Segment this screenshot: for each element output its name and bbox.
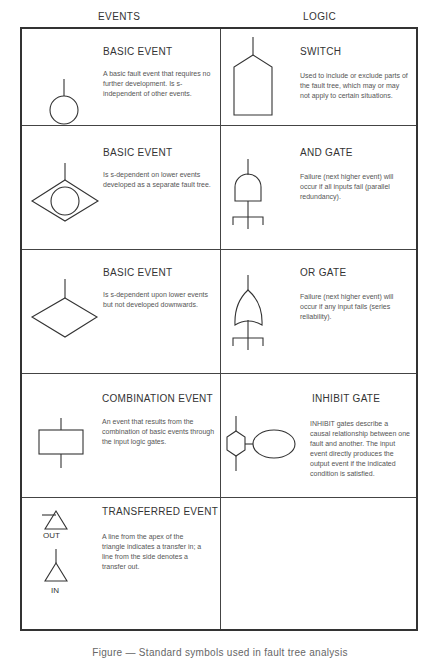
event-description: An event that results from the combinati… — [102, 417, 217, 447]
symbol-table: BASIC EVENT A basic fault event that req… — [20, 27, 418, 631]
event-cell: BASIC EVENT Is s-dependent on lower even… — [22, 125, 220, 249]
event-title: COMBINATION EVENT — [102, 393, 213, 404]
table-row: BASIC EVENT Is s-dependent upon lower ev… — [22, 249, 416, 374]
logic-description: Failure (next higher event) will occur i… — [300, 172, 400, 202]
circle-icon — [50, 79, 90, 129]
logic-cell: INHIBIT GATE INHIBIT gates describe a ca… — [221, 373, 416, 497]
logic-description: Failure (next higher event) will occur i… — [300, 292, 400, 322]
logic-description: INHIBIT gates describe a causal relation… — [310, 419, 410, 479]
rectangle-icon — [39, 418, 89, 473]
event-cell: BASIC EVENT A basic fault event that req… — [22, 29, 220, 125]
empty-logic-cell — [221, 497, 416, 629]
table-row: BASIC EVENT A basic fault event that req… — [22, 29, 416, 126]
event-cell: BASIC EVENT Is s-dependent upon lower ev… — [22, 249, 220, 373]
logic-cell: OR GATE Failure (next higher event) will… — [221, 249, 416, 373]
and-gate-icon — [233, 159, 273, 239]
logic-description: Used to include or exclude parts of the … — [300, 71, 410, 101]
event-title: TRANSFERRED EVENT — [102, 506, 218, 517]
transfer-in-label: IN — [51, 586, 59, 595]
transfer-out-label: OUT — [43, 531, 60, 540]
circle-in-diamond-icon — [32, 163, 102, 233]
table-row: COMBINATION EVENT An event that results … — [22, 373, 416, 498]
inhibit-gate-icon — [226, 416, 306, 476]
event-description: A line from the apex of the triangle ind… — [102, 532, 202, 572]
event-cell: OUT IN TRANSFERRED EVENT A line from the… — [22, 497, 220, 629]
transfer-in-triangle-icon — [42, 549, 82, 589]
event-cell: COMBINATION EVENT An event that results … — [22, 373, 220, 497]
logic-title: OR GATE — [300, 267, 346, 278]
logic-title: INHIBIT GATE — [312, 393, 380, 404]
event-title: BASIC EVENT — [103, 147, 172, 158]
event-title: BASIC EVENT — [103, 46, 172, 57]
events-column-header: EVENTS — [98, 11, 140, 22]
event-title: BASIC EVENT — [103, 267, 172, 278]
logic-cell: AND GATE Failure (next higher event) wil… — [221, 125, 416, 249]
table-row: BASIC EVENT Is s-dependent on lower even… — [22, 125, 416, 250]
figure-caption: Figure — Standard symbols used in fault … — [35, 647, 405, 658]
logic-cell: SWITCH Used to include or exclude parts … — [221, 29, 416, 125]
house-pentagon-icon — [232, 37, 277, 127]
diamond-icon — [32, 279, 102, 349]
or-gate-icon — [233, 275, 273, 355]
logic-title: AND GATE — [300, 147, 353, 158]
table-row: OUT IN TRANSFERRED EVENT A line from the… — [22, 497, 416, 629]
logic-title: SWITCH — [300, 46, 341, 57]
event-description: A basic fault event that requires no fur… — [103, 69, 213, 99]
event-description: Is s-dependent on lower events developed… — [103, 170, 213, 190]
logic-column-header: LOGIC — [303, 11, 336, 22]
event-description: Is s-dependent upon lower events but not… — [103, 290, 218, 310]
